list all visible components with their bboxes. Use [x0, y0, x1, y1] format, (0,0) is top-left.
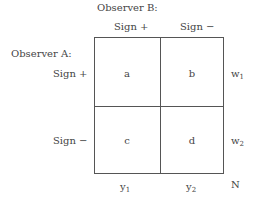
row-header-sign-plus: Sign + — [53, 69, 87, 79]
observer-b-label: Observer B: — [97, 3, 158, 13]
cell-b: b — [189, 69, 195, 79]
cell-d: d — [189, 136, 195, 146]
cell-a: a — [124, 69, 130, 79]
row-total-w1: w1 — [231, 69, 244, 81]
col-header-sign-plus: Sign + — [114, 22, 148, 32]
col-header-sign-minus: Sign − — [180, 22, 214, 32]
contingency-table: a b c d — [94, 37, 224, 174]
observer-a-label: Observer A: — [11, 49, 72, 59]
row-header-sign-minus: Sign − — [53, 136, 87, 146]
col-total-y1: y1 — [120, 182, 130, 194]
cell-c: c — [124, 136, 130, 146]
col-total-y2: y2 — [186, 182, 196, 194]
grand-total: N — [231, 180, 240, 190]
row-divider — [95, 106, 223, 107]
row-total-w2: w2 — [231, 136, 244, 148]
